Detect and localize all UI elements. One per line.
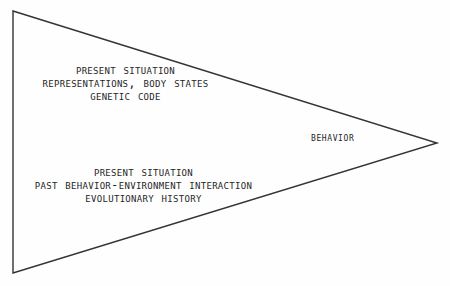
top-text-block: Present Situation Representations, Body … xyxy=(8,64,243,103)
behavior-label: Behavior xyxy=(311,130,354,144)
diagram-canvas: Present Situation Representations, Body … xyxy=(0,0,450,286)
bottom-text-block: Present Situation Past Behavior-Environm… xyxy=(6,166,281,205)
bottom-line-3: Evolutionary History xyxy=(6,192,281,205)
triangle-shape xyxy=(0,0,450,286)
triangle-outline xyxy=(13,11,437,273)
top-line-3: Genetic Code xyxy=(8,90,243,103)
